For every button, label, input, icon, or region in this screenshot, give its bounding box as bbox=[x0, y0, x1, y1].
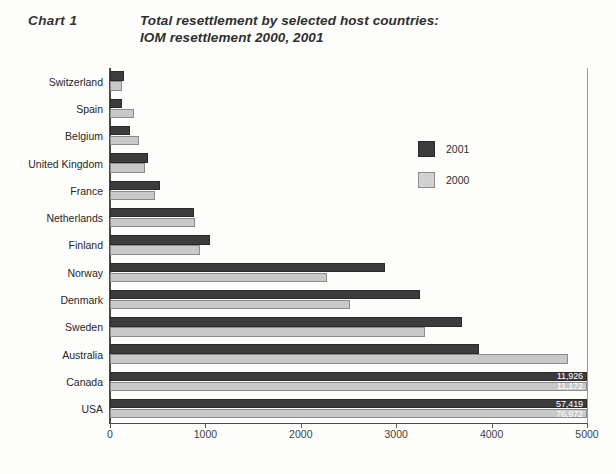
bar-2000-usa: 76,972 bbox=[110, 409, 587, 418]
x-tick-label: 0 bbox=[107, 428, 113, 440]
x-tick-label: 4000 bbox=[480, 428, 503, 440]
bar-2000-netherlands bbox=[110, 218, 195, 227]
table-row: Finland bbox=[110, 232, 587, 259]
legend-item-2000: 2000 bbox=[418, 172, 469, 188]
table-row: France bbox=[110, 177, 587, 204]
table-row: Spain bbox=[110, 95, 587, 122]
legend-label: 2001 bbox=[446, 143, 469, 155]
bar-value-label: 11,172 bbox=[557, 381, 583, 391]
chart-number-label: Chart 1 bbox=[28, 12, 140, 28]
x-tick-label: 3000 bbox=[385, 428, 408, 440]
bar-value-label: 57,419 bbox=[556, 399, 583, 409]
table-row: USA57,41976,972 bbox=[110, 396, 587, 423]
legend-swatch-icon bbox=[418, 172, 435, 188]
table-row: Denmark bbox=[110, 286, 587, 313]
bar-2001-france bbox=[110, 181, 160, 190]
category-label: USA bbox=[81, 403, 103, 415]
bar-2000-norway bbox=[110, 273, 327, 282]
category-label: Netherlands bbox=[46, 212, 103, 224]
table-row: Netherlands bbox=[110, 205, 587, 232]
category-label: Norway bbox=[67, 267, 103, 279]
plot-right-border bbox=[587, 68, 588, 423]
bar-2001-australia bbox=[110, 344, 479, 353]
chart-title-line-1: Total resettlement by selected host coun… bbox=[140, 12, 439, 29]
bar-2000-canada: 11,172 bbox=[110, 382, 587, 391]
category-label: Australia bbox=[62, 349, 103, 361]
chart-title-block: Chart 1 Total resettlement by selected h… bbox=[28, 12, 598, 46]
plot-area: SwitzerlandSpainBelgiumUnited KingdomFra… bbox=[110, 68, 587, 423]
bar-2001-canada: 11,926 bbox=[110, 372, 587, 381]
legend-label: 2000 bbox=[446, 174, 469, 186]
bar-2001-netherlands bbox=[110, 208, 194, 217]
category-label: Canada bbox=[66, 376, 103, 388]
bar-2001-switzerland bbox=[110, 71, 124, 80]
bar-2000-spain bbox=[110, 109, 134, 118]
bar-2001-denmark bbox=[110, 290, 420, 299]
bar-2001-belgium bbox=[110, 126, 130, 135]
chart-figure: Chart 1 Total resettlement by selected h… bbox=[0, 0, 616, 474]
bar-value-label: 76,972 bbox=[556, 409, 583, 419]
legend-swatch-icon bbox=[418, 141, 435, 157]
category-label: Switzerland bbox=[49, 76, 103, 88]
bar-2001-sweden bbox=[110, 317, 462, 326]
bar-2001-united-kingdom bbox=[110, 153, 148, 162]
table-row: Switzerland bbox=[110, 68, 587, 95]
table-row: Canada11,92611,172 bbox=[110, 368, 587, 395]
category-label: Finland bbox=[69, 239, 103, 251]
bar-2000-united-kingdom bbox=[110, 163, 145, 172]
category-label: France bbox=[70, 185, 103, 197]
bar-2000-australia bbox=[110, 354, 568, 363]
bar-value-label: 11,926 bbox=[557, 371, 583, 381]
table-row: United Kingdom bbox=[110, 150, 587, 177]
table-row: Belgium bbox=[110, 123, 587, 150]
table-row: Sweden bbox=[110, 314, 587, 341]
bar-2000-sweden bbox=[110, 327, 425, 336]
x-tick-label: 1000 bbox=[194, 428, 217, 440]
table-row: Australia bbox=[110, 341, 587, 368]
x-tick-label: 2000 bbox=[289, 428, 312, 440]
x-tick-label: 5000 bbox=[575, 428, 598, 440]
category-label: Denmark bbox=[60, 294, 103, 306]
page-title: Total resettlement by selected host coun… bbox=[140, 12, 439, 46]
category-label: Sweden bbox=[65, 321, 103, 333]
bar-2001-spain bbox=[110, 99, 122, 108]
bar-2000-denmark bbox=[110, 300, 350, 309]
category-label: United Kingdom bbox=[28, 158, 103, 170]
category-label: Belgium bbox=[65, 130, 103, 142]
bar-2001-usa: 57,419 bbox=[110, 399, 587, 408]
bar-2000-belgium bbox=[110, 136, 139, 145]
category-label: Spain bbox=[76, 103, 103, 115]
table-row: Norway bbox=[110, 259, 587, 286]
bar-2000-finland bbox=[110, 245, 200, 254]
legend-item-2001: 2001 bbox=[418, 141, 469, 157]
chart-legend: 20012000 bbox=[418, 141, 469, 203]
bar-2000-switzerland bbox=[110, 81, 122, 90]
bar-2001-finland bbox=[110, 235, 210, 244]
chart-title-line-2: IOM resettlement 2000, 2001 bbox=[140, 29, 439, 46]
bar-2001-norway bbox=[110, 263, 385, 272]
bar-2000-france bbox=[110, 191, 155, 200]
